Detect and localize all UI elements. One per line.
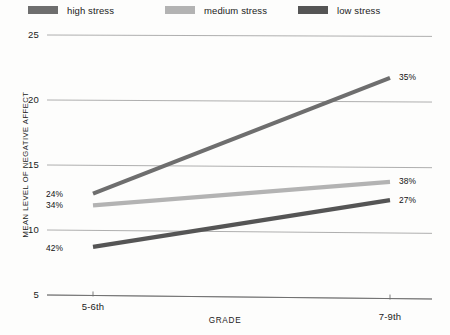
series-line-low-stress bbox=[93, 200, 390, 247]
gridline-10 bbox=[47, 230, 432, 233]
x-tick-label-5-6th: 5-6th bbox=[63, 301, 123, 312]
gridline-20 bbox=[47, 100, 432, 102]
annotation-high-stress-left: 24% bbox=[39, 189, 63, 199]
gridline-15 bbox=[47, 165, 432, 168]
x-axis-title: GRADE bbox=[0, 316, 450, 325]
annotation-low-stress-right: 27% bbox=[399, 195, 416, 205]
annotation-medium-stress-right: 38% bbox=[399, 176, 416, 186]
annotation-low-stress-left: 42% bbox=[39, 243, 63, 253]
annotation-medium-stress-left: 34% bbox=[39, 200, 63, 210]
y-tick-label-5: 5 bbox=[13, 289, 39, 300]
axis-lines bbox=[47, 291, 432, 299]
series-lines bbox=[93, 78, 390, 247]
x-axis-line bbox=[47, 295, 432, 299]
plot-area: 25 20 15 10 5 5-6th 7-9th 24% 34% 42% 35… bbox=[0, 0, 450, 335]
y-axis-title: MEAN LEVEL OF NEGATIVE AFFECT bbox=[21, 55, 30, 275]
chart-svg bbox=[0, 0, 450, 335]
gridlines bbox=[47, 35, 432, 299]
series-line-medium-stress bbox=[93, 182, 390, 205]
gridline-25 bbox=[47, 35, 432, 36]
y-tick-label-25: 25 bbox=[13, 29, 39, 40]
chart-figure: high stress medium stress low stress 25 … bbox=[0, 0, 450, 335]
annotation-high-stress-right: 35% bbox=[399, 72, 416, 82]
series-line-high-stress bbox=[93, 78, 390, 194]
